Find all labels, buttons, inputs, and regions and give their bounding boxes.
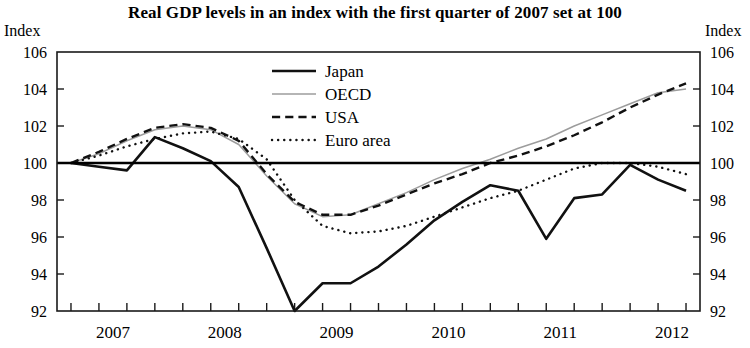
y-tick-label-right: 92 xyxy=(710,303,726,320)
y-tick-label-left: 92 xyxy=(31,303,47,320)
chart-legend: JapanOECDUSAEuro area xyxy=(272,62,391,150)
series-line-oecd xyxy=(71,89,686,217)
x-tick-label: 2011 xyxy=(544,323,577,342)
x-tick-label: 2007 xyxy=(96,323,131,342)
y-tick-label-left: 100 xyxy=(23,155,47,172)
y-tick-label-right: 102 xyxy=(710,118,734,135)
y-tick-label-right: 106 xyxy=(710,44,734,61)
y-axis-ticks-right: 92949698100102104106 xyxy=(693,44,734,320)
y-axis-ticks-left: 92949698100102104106 xyxy=(23,44,64,320)
y-tick-label-left: 98 xyxy=(31,192,47,209)
data-series-group xyxy=(71,83,686,311)
y-tick-label-left: 96 xyxy=(31,229,47,246)
y-tick-label-left: 104 xyxy=(23,81,47,98)
gdp-index-chart-figure: Real GDP levels in an index with the fir… xyxy=(0,0,750,348)
x-tick-label: 2009 xyxy=(320,323,354,342)
y-tick-label-right: 94 xyxy=(710,266,726,283)
y-tick-label-right: 100 xyxy=(710,155,734,172)
x-tick-label: 2012 xyxy=(655,323,689,342)
plot-frame-border xyxy=(57,52,700,311)
x-tick-label: 2008 xyxy=(208,323,242,342)
y-tick-label-left: 94 xyxy=(31,266,47,283)
legend-label-euro-area: Euro area xyxy=(325,131,391,150)
chart-plot-area: 92949698100102104106 9294969810010210410… xyxy=(0,0,750,348)
legend-label-usa: USA xyxy=(325,108,360,127)
y-tick-label-right: 98 xyxy=(710,192,726,209)
x-tick-label: 2010 xyxy=(431,323,465,342)
legend-label-japan: Japan xyxy=(325,62,364,81)
y-tick-label-right: 96 xyxy=(710,229,726,246)
y-tick-label-right: 104 xyxy=(710,81,734,98)
y-tick-label-left: 102 xyxy=(23,118,47,135)
x-axis-ticks: 200720082009201020112012 xyxy=(71,303,689,342)
y-tick-label-left: 106 xyxy=(23,44,47,61)
legend-label-oecd: OECD xyxy=(325,85,371,104)
